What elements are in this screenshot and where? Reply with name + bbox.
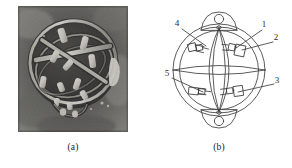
photograph-image <box>18 6 128 132</box>
callout-label-5: 5 <box>165 68 170 78</box>
callout-leader-line-3 <box>238 84 274 92</box>
bottom-mounting-boss <box>201 110 237 128</box>
figure-root: (a) <box>0 0 292 168</box>
callout-label-2: 2 <box>274 32 279 42</box>
panel-b-diagram: 4 1 2 3 5 (b) <box>146 0 292 168</box>
panel-a-photograph: (a) <box>0 0 146 168</box>
callout-label-3: 3 <box>275 75 280 85</box>
callout-leader-line-2 <box>242 42 273 50</box>
callout-label-1: 1 <box>262 19 267 29</box>
panel-b-caption: (b) <box>146 142 292 152</box>
callout-leader-line-5 <box>172 78 203 92</box>
meridian-arcs <box>209 28 229 112</box>
callout-label-4: 4 <box>175 18 180 28</box>
schematic-drawing: 4 1 2 3 5 <box>146 0 292 140</box>
inner-ring <box>180 31 259 110</box>
panel-a-caption: (a) <box>0 142 146 152</box>
fixture-block-upper-left <box>188 43 209 53</box>
top-mounting-boss <box>201 12 237 30</box>
fixture-block-lower-left <box>189 87 211 95</box>
